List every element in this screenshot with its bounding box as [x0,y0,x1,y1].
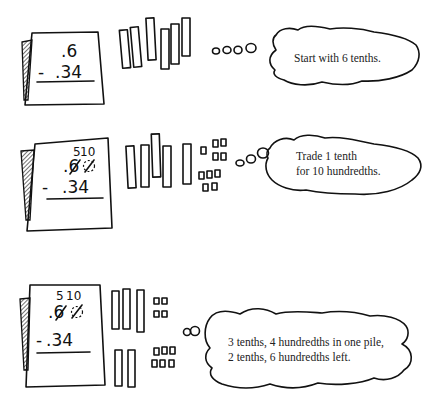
problem-bottom: .34 [55,62,82,82]
problem-minus: - [38,62,44,82]
regroup-tenths: 5 [56,289,64,303]
worksheet-paper: .6 - .34 [22,32,104,105]
problem-top: .6 [61,41,77,61]
regroup-hundredths: 10 [80,145,95,159]
decimal-subtraction-diagram: .6 - .34 Start with 6 tenths. [0,0,439,417]
problem-minus: - [42,177,48,197]
thought-bubble-1: Start with 6 tenths. [270,26,419,85]
hundredths-squares [199,139,226,191]
step-3: 5 10 .6 - .34 [20,285,411,388]
regroup-hundredths: 10 [66,289,81,303]
worksheet-paper: 5 10 .6 - .34 [21,138,112,231]
step-1: .6 - .34 Start with 6 tenths. [22,18,419,105]
bubble-text-line-1: 3 tenths, 4 hundredths in one pile, [228,336,384,349]
worksheet-paper: 5 10 .6 - .34 [20,285,105,387]
tenths-rods [126,134,191,188]
taken-pile [112,289,167,332]
problem-minus: - [36,330,42,350]
bubble-text-line-2: for 10 hundredths. [296,165,381,177]
bubble-text-line-1: Trade 1 tenth [296,150,357,162]
thought-bubble-3: 3 tenths, 4 hundredths in one pile, 2 te… [205,309,411,388]
problem-bottom: .34 [46,330,73,350]
bubble-text-line-2: 2 tenths, 6 hundredths left. [228,351,351,364]
thought-trail [213,44,257,55]
bubble-text-line-1: Start with 6 tenths. [294,52,381,64]
step-2: 5 10 .6 - .34 [21,134,421,231]
thought-trail [236,148,269,166]
tenths-rods [119,18,190,69]
left-pile [115,347,175,387]
thought-trail [184,327,200,336]
problem-bottom: .34 [62,177,89,197]
thought-bubble-2: Trade 1 tenth for 10 hundredths. [266,135,421,194]
